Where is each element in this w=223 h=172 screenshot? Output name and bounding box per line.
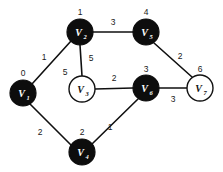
graph-edge [92, 99, 138, 144]
edge-weight-label: 5 [89, 53, 94, 63]
graph-node-subscript-v1: 1 [26, 94, 29, 101]
edge-weight-label: 1 [108, 122, 113, 132]
graph-edge [32, 41, 71, 84]
graph-node-index-v7: 6 [198, 64, 203, 74]
edge-weight-label: 3 [171, 94, 176, 104]
graph-figure: 12532123 V1V2V3V4V5V6V7 0152436 [0, 0, 223, 172]
edge-weight-label: 2 [112, 73, 117, 83]
edge-weight-label: 3 [111, 17, 116, 27]
graph-node-index-v3: 5 [63, 67, 68, 77]
edge-weight-label: 2 [178, 51, 183, 61]
graph-edge [80, 45, 82, 76]
graph-node-index-v6: 3 [144, 64, 149, 74]
edge-weights-layer: 12532123 [38, 17, 183, 137]
graph-node-index-v1: 0 [21, 68, 26, 78]
graph-node-index-v2: 1 [78, 7, 83, 17]
graph-canvas: 12532123 V1V2V3V4V5V6V7 0152436 [0, 0, 223, 172]
edge-weight-label: 2 [38, 127, 43, 137]
graph-node-index-v5: 4 [144, 7, 149, 17]
graph-edge [30, 104, 71, 145]
graph-edge [154, 43, 192, 77]
edge-weight-label: 1 [42, 52, 47, 62]
graph-edge [95, 88, 133, 89]
nodes-layer: V1V2V3V4V5V6V7 [10, 19, 213, 165]
graph-node-index-v4: 2 [80, 127, 85, 137]
